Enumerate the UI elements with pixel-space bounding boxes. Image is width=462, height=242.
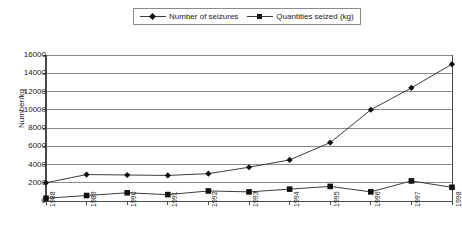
y-axis-tick-label: 8000	[12, 124, 46, 132]
y-axis-tick-label: 0	[12, 197, 46, 205]
x-axis-tick-label: 1991	[171, 191, 178, 207]
y-axis-tick-label: 12000	[12, 88, 46, 96]
chart-figure: Number of seizures Quantities seized (kg…	[0, 0, 462, 242]
data-point-diamond	[449, 61, 455, 67]
y-axis-tick-label: 4000	[12, 161, 46, 169]
data-point-diamond	[205, 171, 211, 177]
data-point-diamond	[408, 85, 414, 91]
chart-plot-area	[0, 0, 462, 242]
data-point-square	[84, 193, 90, 199]
chart-legend: Number of seizures Quantities seized (kg…	[133, 8, 361, 25]
y-axis-tick-labels: 0200040006000800010000120001400016000	[0, 0, 46, 242]
x-axis-tick-label: 1989	[90, 191, 97, 207]
y-axis-tick-label: 6000	[12, 142, 46, 150]
data-point-diamond	[287, 157, 293, 163]
data-point-diamond	[165, 172, 171, 178]
y-axis-tick-label: 14000	[12, 69, 46, 77]
data-point-square	[449, 185, 455, 191]
data-point-square	[409, 178, 415, 184]
data-point-diamond	[84, 171, 90, 177]
x-axis-tick-label: 1988	[49, 191, 56, 207]
x-axis-tick-label: 1998	[455, 191, 462, 207]
legend-label-quantities-seized: Quantities seized (kg)	[276, 12, 353, 21]
legend-label-number-of-seizures: Number of seizures	[169, 12, 238, 21]
data-point-square	[327, 184, 333, 190]
x-axis-tick-label: 1992	[211, 191, 218, 207]
square-marker-icon	[247, 12, 273, 21]
x-axis-tick-label: 1990	[130, 191, 137, 207]
data-point-square	[287, 186, 293, 192]
x-axis-tick-label: 1994	[293, 191, 300, 207]
x-axis-tick-label: 1996	[374, 191, 381, 207]
x-axis-tick-label: 1995	[333, 191, 340, 207]
data-point-square	[368, 189, 374, 195]
data-point-diamond	[124, 172, 130, 178]
data-point-square	[246, 189, 252, 195]
y-axis-tick-label: 10000	[12, 106, 46, 114]
x-axis-tick-label: 1997	[414, 191, 421, 207]
y-axis-tick-label: 2000	[12, 179, 46, 187]
x-axis-tick-label: 1993	[252, 191, 259, 207]
y-axis-tick-label: 16000	[12, 51, 46, 59]
legend-entry-quantities-seized: Quantities seized (kg)	[247, 12, 353, 21]
legend-entry-number-of-seizures: Number of seizures	[140, 12, 238, 21]
data-point-diamond	[246, 164, 252, 170]
data-point-square	[165, 192, 171, 198]
diamond-marker-icon	[140, 12, 166, 21]
